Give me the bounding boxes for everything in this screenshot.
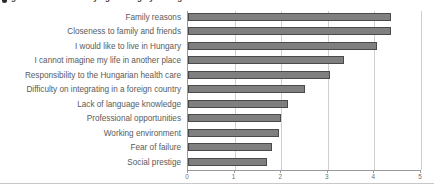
tick-label: 3 — [325, 173, 329, 180]
bar-row — [188, 83, 421, 97]
bar-chart-figure: Figure: Reasons for staying in Hungary a… — [0, 0, 434, 184]
gridline — [421, 11, 422, 170]
tick-label: 1 — [232, 173, 236, 180]
tick-label: 0 — [185, 173, 189, 180]
tick-label: 4 — [372, 173, 376, 180]
bar — [188, 158, 267, 166]
bar-row — [188, 156, 421, 170]
bar-row — [188, 40, 421, 54]
cut-off-title-text: Figure: Reasons for staying in Hungary a… — [4, 0, 250, 2]
category-label: I would like to live in Hungary — [75, 40, 181, 54]
category-label: Social prestige — [127, 156, 181, 170]
bar-row — [188, 11, 421, 25]
category-axis-labels: Family reasonsCloseness to family and fr… — [0, 11, 184, 170]
bar — [188, 71, 330, 79]
bar-row — [188, 127, 421, 141]
bar — [188, 27, 391, 35]
tick-label: 5 — [418, 173, 422, 180]
bar — [188, 42, 377, 50]
bar — [188, 100, 288, 108]
bar — [188, 56, 344, 64]
category-label: Closeness to family and friends — [67, 25, 181, 39]
category-label: Family reasons — [125, 11, 181, 25]
bar — [188, 143, 272, 151]
bar — [188, 13, 391, 21]
bar — [188, 129, 279, 137]
bar — [188, 114, 281, 122]
category-label: Working environment — [104, 127, 181, 141]
bar-row — [188, 69, 421, 83]
bar-row — [188, 98, 421, 112]
category-label: I cannot imagine my life in another plac… — [34, 54, 181, 68]
plot-area — [187, 11, 421, 171]
bar-row — [188, 25, 421, 39]
bar-row — [188, 112, 421, 126]
bar-row — [188, 141, 421, 155]
category-label: Professional opportunities — [87, 112, 181, 126]
cut-off-title: Figure: Reasons for staying in Hungary a… — [0, 0, 434, 7]
value-axis-labels: 012345 — [187, 170, 422, 184]
category-label: Responsibility to the Hungarian health c… — [25, 69, 181, 83]
bar — [188, 85, 305, 93]
category-label: Difficulty on integrating in a foreign c… — [26, 83, 181, 97]
tick-label: 2 — [278, 173, 282, 180]
category-label: Fear of failure — [130, 141, 181, 155]
bar-row — [188, 54, 421, 68]
category-label: Lack of language knowledge — [77, 98, 181, 112]
